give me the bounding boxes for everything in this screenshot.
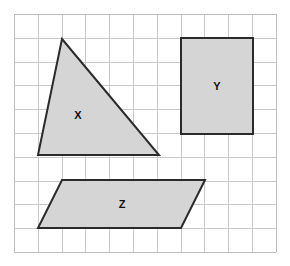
shape-y-label: Y [213,80,221,92]
shape-y[interactable]: Y [181,38,253,134]
figure-canvas: XYZ [0,0,290,266]
shape-z[interactable]: Z [38,180,205,228]
shape-z-label: Z [119,198,126,210]
geometry-figure: XYZ [0,0,290,266]
shape-x-label: X [74,109,82,121]
